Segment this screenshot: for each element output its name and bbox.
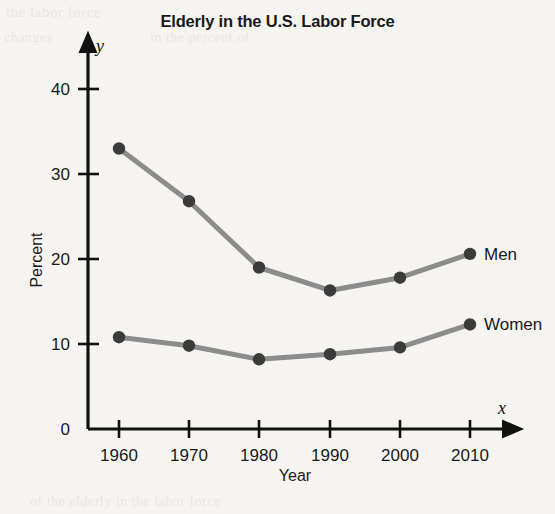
data-point-marker[interactable] <box>253 261 265 273</box>
series-label-group: MenWomen <box>484 245 542 335</box>
y-axis-title: Percent <box>28 232 45 288</box>
x-tick-label: 1960 <box>100 446 138 465</box>
x-axis-title: Year <box>279 467 312 484</box>
series-line <box>119 324 470 359</box>
data-point-marker[interactable] <box>183 195 195 207</box>
x-axis: x Year <box>88 398 506 484</box>
data-point-marker[interactable] <box>183 340 195 352</box>
y-tick-label: 40 <box>51 80 70 99</box>
series-layer <box>113 142 476 365</box>
x-tick-label: 1970 <box>170 446 208 465</box>
x-tick-label: 1980 <box>240 446 278 465</box>
data-point-marker[interactable] <box>324 348 336 360</box>
figure-container: the labor force changes in the percent o… <box>0 0 555 514</box>
x-axis-letter: x <box>497 398 506 418</box>
y-tick-group: 010203040 <box>51 80 99 439</box>
data-point-marker[interactable] <box>113 142 125 154</box>
data-point-marker[interactable] <box>324 284 336 296</box>
series-label-women: Women <box>484 315 542 334</box>
x-tick-label: 2000 <box>381 446 419 465</box>
data-point-marker[interactable] <box>464 248 476 260</box>
x-tick-group: 196019701980199020002010 <box>100 420 489 465</box>
data-point-marker[interactable] <box>253 353 265 365</box>
x-tick-label: 2010 <box>451 446 489 465</box>
y-tick-label: 20 <box>51 250 70 269</box>
data-point-marker[interactable] <box>394 341 406 353</box>
data-point-marker[interactable] <box>113 331 125 343</box>
y-tick-label: 10 <box>51 335 70 354</box>
y-axis-letter: y <box>94 36 104 56</box>
x-tick-label: 1990 <box>311 446 349 465</box>
data-point-marker[interactable] <box>464 318 476 330</box>
series-line <box>119 149 470 291</box>
line-chart-plot: y Percent x Year 010203040 1960197019801… <box>0 0 555 514</box>
data-point-marker[interactable] <box>394 272 406 284</box>
y-tick-label: 0 <box>61 420 70 439</box>
series-label-men: Men <box>484 245 517 264</box>
y-tick-label: 30 <box>51 165 70 184</box>
